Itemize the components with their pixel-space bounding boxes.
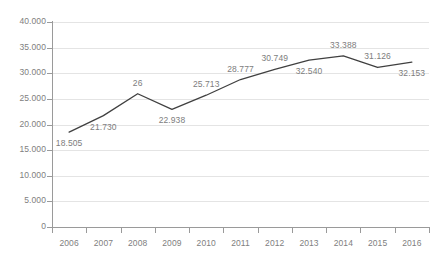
data-point-label: 21.730 [75, 122, 131, 132]
data-point-label: 25.713 [178, 79, 234, 89]
data-point-label: 30.749 [247, 53, 303, 63]
series-line-layer [0, 0, 438, 266]
data-point-label: 31.126 [350, 51, 406, 61]
data-point-label: 33.388 [315, 40, 371, 50]
data-point-label: 32.153 [384, 68, 438, 78]
line-chart: 05.00010.00015.00020.00025.00030.00035.0… [0, 0, 438, 266]
data-point-label: 26 [110, 78, 166, 88]
data-point-label: 32.540 [281, 66, 337, 76]
data-point-label: 28.777 [213, 64, 269, 74]
data-point-label: 18.505 [41, 138, 97, 148]
data-point-label: 22.938 [144, 115, 200, 125]
